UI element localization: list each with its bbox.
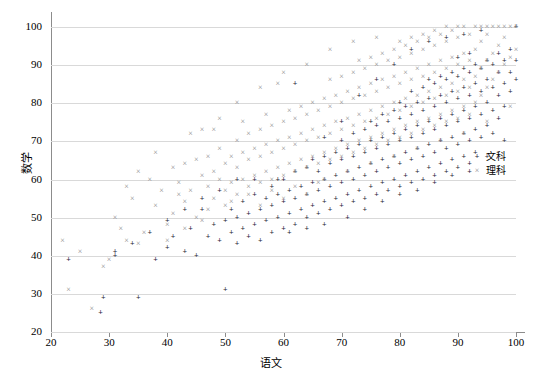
data-point: × bbox=[194, 156, 199, 164]
data-point: × bbox=[421, 46, 426, 54]
data-point: × bbox=[473, 23, 478, 31]
x-tick-label: 90 bbox=[438, 337, 478, 348]
data-point: + bbox=[403, 149, 408, 157]
data-point: × bbox=[113, 214, 118, 222]
data-point: × bbox=[485, 84, 490, 92]
data-point: + bbox=[293, 80, 298, 88]
data-point: × bbox=[392, 46, 397, 54]
data-point: × bbox=[432, 122, 437, 130]
data-point: × bbox=[339, 99, 344, 107]
data-point: + bbox=[182, 248, 187, 256]
data-point: × bbox=[467, 111, 472, 119]
data-point: + bbox=[409, 111, 414, 119]
data-point: × bbox=[264, 168, 269, 176]
data-point: × bbox=[409, 103, 414, 111]
data-point: × bbox=[438, 137, 443, 145]
data-point: × bbox=[438, 31, 443, 39]
data-point: + bbox=[363, 126, 368, 134]
data-point: × bbox=[444, 65, 449, 73]
legend-item: ×理科 bbox=[472, 164, 524, 178]
data-point: × bbox=[386, 57, 391, 65]
data-point: × bbox=[339, 73, 344, 81]
data-point: × bbox=[380, 50, 385, 58]
x-axis-tick bbox=[51, 333, 52, 337]
data-point: × bbox=[421, 126, 426, 134]
data-point: × bbox=[415, 118, 420, 126]
data-point: + bbox=[241, 198, 246, 206]
x-tick-label: 70 bbox=[322, 337, 362, 348]
data-point: × bbox=[461, 23, 466, 31]
x-axis-tick bbox=[167, 333, 168, 337]
data-point: × bbox=[334, 145, 339, 153]
data-point: + bbox=[165, 244, 170, 252]
data-point: × bbox=[368, 80, 373, 88]
data-point: × bbox=[142, 229, 147, 237]
data-point: × bbox=[456, 88, 461, 96]
data-point: × bbox=[432, 27, 437, 35]
data-point: × bbox=[66, 286, 71, 294]
data-point: + bbox=[130, 240, 135, 248]
data-point: + bbox=[392, 61, 397, 69]
data-point: + bbox=[490, 130, 495, 138]
data-point: × bbox=[403, 95, 408, 103]
data-point: × bbox=[397, 38, 402, 46]
data-point: × bbox=[461, 130, 466, 138]
data-point: × bbox=[397, 80, 402, 88]
data-point: × bbox=[304, 191, 309, 199]
data-point: × bbox=[380, 76, 385, 84]
data-point: + bbox=[473, 126, 478, 134]
data-point: × bbox=[304, 61, 309, 69]
data-point: + bbox=[380, 111, 385, 119]
data-point: × bbox=[461, 103, 466, 111]
data-point: × bbox=[351, 122, 356, 130]
data-point: × bbox=[450, 27, 455, 35]
data-point: × bbox=[182, 225, 187, 233]
x-tick-label: 80 bbox=[380, 337, 420, 348]
data-point: + bbox=[235, 240, 240, 248]
data-point: × bbox=[508, 54, 513, 62]
data-point: + bbox=[368, 118, 373, 126]
data-point: × bbox=[264, 141, 269, 149]
data-point: + bbox=[363, 195, 368, 203]
data-point: + bbox=[293, 221, 298, 229]
data-point: × bbox=[107, 256, 112, 264]
data-point: × bbox=[357, 84, 362, 92]
data-point: + bbox=[217, 237, 222, 245]
data-point: × bbox=[229, 198, 234, 206]
data-point: + bbox=[514, 57, 519, 65]
data-point: × bbox=[490, 23, 495, 31]
data-point: × bbox=[397, 107, 402, 115]
data-point: × bbox=[322, 176, 327, 184]
data-point: × bbox=[322, 122, 327, 130]
data-point: × bbox=[188, 130, 193, 138]
data-point: + bbox=[275, 191, 280, 199]
data-point: + bbox=[66, 256, 71, 264]
data-point: × bbox=[293, 115, 298, 123]
data-point: × bbox=[334, 118, 339, 126]
data-point: × bbox=[392, 153, 397, 161]
x-axis-tick bbox=[342, 333, 343, 337]
data-point: + bbox=[339, 179, 344, 187]
data-point: × bbox=[229, 179, 234, 187]
data-point: × bbox=[374, 34, 379, 42]
data-point: + bbox=[438, 160, 443, 168]
data-point: + bbox=[461, 65, 466, 73]
data-point: × bbox=[421, 99, 426, 107]
data-point: + bbox=[357, 92, 362, 100]
data-point: × bbox=[124, 237, 129, 245]
data-point: × bbox=[293, 183, 298, 191]
data-point: + bbox=[357, 164, 362, 172]
data-point: × bbox=[171, 210, 176, 218]
data-point: × bbox=[345, 141, 350, 149]
data-point: × bbox=[339, 126, 344, 134]
data-point: + bbox=[473, 61, 478, 69]
data-point: + bbox=[409, 179, 414, 187]
data-point: + bbox=[351, 198, 356, 206]
data-point: × bbox=[275, 137, 280, 145]
y-tick-label: 20 bbox=[8, 326, 42, 337]
data-point: + bbox=[456, 73, 461, 81]
data-point: × bbox=[444, 23, 449, 31]
data-point: × bbox=[165, 237, 170, 245]
data-point: + bbox=[421, 153, 426, 161]
data-point: + bbox=[182, 206, 187, 214]
